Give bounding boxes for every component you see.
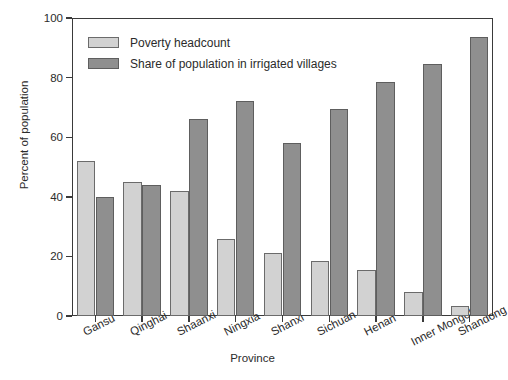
legend-label: Share of population in irrigated village… [130, 57, 337, 71]
bar [357, 270, 376, 316]
bar [376, 82, 395, 316]
bar [404, 292, 423, 316]
bar [311, 261, 330, 316]
y-tick-label: 60 [50, 129, 63, 145]
bar [451, 306, 470, 316]
bar [283, 143, 302, 316]
bar [470, 37, 489, 316]
y-tick-label: 80 [50, 70, 63, 86]
bar [142, 185, 161, 316]
y-tick-label: 0 [57, 308, 63, 324]
legend-swatch-dark-gray [88, 58, 119, 69]
legend-item-poverty-headcount: Poverty headcount [88, 34, 337, 51]
y-tick-mark [66, 256, 72, 257]
x-axis-title: Province [0, 352, 505, 364]
x-tick-mark [422, 316, 423, 322]
y-tick-label: 40 [50, 189, 63, 205]
y-tick-label: 100 [44, 10, 63, 26]
bar [170, 191, 189, 316]
bar [96, 197, 115, 316]
legend-item-irrigated-villages: Share of population in irrigated village… [88, 55, 337, 72]
bar [236, 101, 255, 316]
y-tick-mark [66, 137, 72, 138]
legend-swatch-light-gray [88, 37, 119, 48]
bar [423, 64, 442, 316]
y-tick-mark [66, 315, 72, 316]
legend-label: Poverty headcount [130, 36, 230, 50]
y-tick-mark [66, 196, 72, 197]
bar [264, 253, 283, 316]
y-tick-mark [66, 17, 72, 18]
y-axis-title: Percent of population [18, 25, 30, 245]
bar [77, 161, 96, 316]
bar [330, 109, 349, 316]
y-tick-mark [66, 77, 72, 78]
bar [123, 182, 142, 316]
bar [217, 239, 236, 316]
bar [189, 119, 208, 316]
chart-legend: Poverty headcount Share of population in… [88, 34, 337, 76]
y-tick-label: 20 [50, 248, 63, 264]
